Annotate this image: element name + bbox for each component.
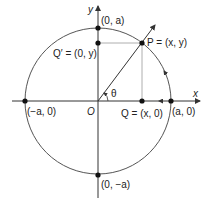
point-bottom: [95, 172, 100, 177]
point-right: [168, 98, 173, 103]
point-top: [95, 25, 100, 30]
x-axis-label: x: [192, 88, 199, 99]
point-q: [139, 98, 144, 103]
label-q: Q = (x, 0): [121, 108, 163, 119]
theta-arc: [104, 93, 108, 101]
label-q-prime: Q′ = (0, y): [53, 48, 97, 59]
label-top: (0, a): [101, 15, 124, 26]
point-left: [22, 98, 27, 103]
point-q-prime: [95, 40, 100, 45]
point-p: [139, 40, 144, 45]
label-left: (−a, 0): [27, 106, 56, 117]
origin-label: O: [87, 106, 95, 117]
y-axis-label: y: [87, 4, 94, 15]
circle-diagram: y x O θ (0, a) Q′ = (0, y) P = (x, y) (−…: [0, 0, 205, 201]
label-p: P = (x, y): [147, 37, 187, 48]
label-bottom: (0, −a): [101, 179, 130, 190]
label-right: (a, 0): [172, 106, 195, 117]
theta-label: θ: [111, 88, 117, 99]
